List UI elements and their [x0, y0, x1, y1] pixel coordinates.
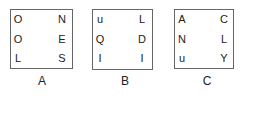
box-c-cell-r1-right: C — [219, 14, 229, 25]
box-b-cell-r3-left: I — [95, 53, 105, 64]
box-a-cell-r2-left: O — [13, 34, 23, 45]
box-c-cell-r1-left: A — [177, 14, 187, 25]
box-a-label: A — [32, 75, 52, 87]
box-b-cell-r2-right: D — [137, 34, 147, 45]
box-c-label: C — [197, 75, 217, 87]
box-a-cell-r1-left: O — [13, 14, 23, 25]
box-b-cell-r1-left: u — [95, 14, 105, 25]
box-c-cell-r2-right: L — [219, 34, 229, 45]
box-c-cell-r3-right: Y — [219, 53, 229, 64]
box-b-cell-r1-right: L — [137, 14, 147, 25]
box-b-cell-r2-left: Q — [95, 34, 105, 45]
box-a-cell-r3-left: L — [13, 53, 23, 64]
box-a-cell-r3-right: S — [57, 53, 67, 64]
box-b-label: B — [115, 75, 135, 87]
box-c-cell-r2-left: N — [177, 34, 187, 45]
box-a-cell-r1-right: N — [57, 14, 67, 25]
box-a-cell-r2-right: E — [57, 34, 67, 45]
box-c-cell-r3-left: u — [177, 53, 187, 64]
box-b-cell-r3-right: I — [137, 53, 147, 64]
